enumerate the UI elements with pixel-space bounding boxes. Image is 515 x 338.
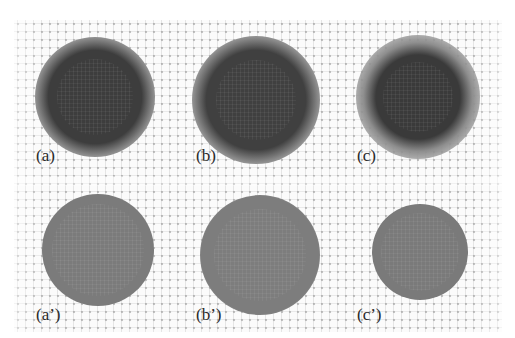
- panel-label-c: (c): [357, 147, 376, 164]
- panel-label-c2: (c’): [357, 306, 382, 323]
- row-separator-band: [14, 176, 502, 186]
- spot-core-a: [57, 59, 133, 135]
- spot-core-b: [216, 60, 296, 140]
- spot-core-b2: [214, 209, 306, 301]
- spot-core-c2: [381, 213, 459, 291]
- figure-spot-comparison: (a)(b)(c)(a’)(b’)(c’): [0, 0, 515, 338]
- panel-label-b: (b): [196, 147, 216, 164]
- spot-core-a2: [52, 204, 144, 296]
- panel-label-b2: (b’): [196, 306, 221, 323]
- panel-label-a: (a): [36, 147, 55, 164]
- spot-core-c: [383, 62, 453, 132]
- panel-label-a2: (a’): [36, 306, 61, 323]
